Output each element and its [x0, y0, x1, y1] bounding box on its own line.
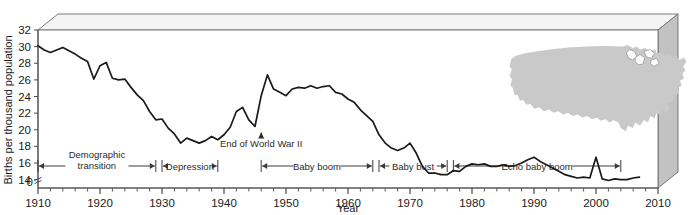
x-tick-label: 2000 [583, 197, 609, 209]
x-tick-label: 1930 [149, 197, 175, 209]
frame-top-panel [38, 14, 678, 30]
y-tick-group: 14161820222426283032 [18, 24, 38, 186]
x-axis: 1910192019301940195019601970198019902000… [25, 188, 671, 214]
period-band-label: transition [78, 160, 117, 171]
x-tick-label: 1980 [459, 197, 485, 209]
period-band-label: Depression [166, 161, 214, 172]
y-tick-label: 26 [18, 74, 31, 86]
y-tick-label: 18 [18, 140, 31, 152]
y-axis-title: Births per thousand population [2, 35, 14, 184]
x-tick-label: 1940 [211, 197, 237, 209]
y-tick-label: 16 [18, 157, 31, 169]
annotation-label: End of World War II [220, 138, 302, 149]
y-tick-label: 28 [18, 57, 31, 69]
x-tick-label: 2010 [645, 197, 671, 209]
x-tick-label: 1910 [25, 197, 51, 209]
x-tick-label: 1970 [397, 197, 423, 209]
x-tick-label: 1990 [521, 197, 547, 209]
y-tick-label: 32 [18, 24, 31, 36]
y-tick-label: 24 [18, 91, 31, 103]
period-band-label: Demographic [69, 149, 126, 160]
y-axis: 14161820222426283032 0 Births per thousa… [2, 24, 42, 188]
y-tick-label: 30 [18, 41, 31, 53]
x-axis-title: Year [337, 202, 360, 214]
y-tick-label: 20 [18, 124, 31, 136]
x-tick-label: 1920 [87, 197, 113, 209]
chart-figure: 14161820222426283032 0 Births per thousa… [0, 0, 698, 215]
x-tick-label: 1950 [273, 197, 299, 209]
y-axis-zero-label: 0 [27, 176, 33, 188]
y-tick-label: 22 [18, 107, 31, 119]
period-band: Depression [162, 160, 218, 172]
period-band-label: Baby boom [293, 161, 341, 172]
birth-rate-line-chart: 14161820222426283032 0 Births per thousa… [0, 0, 698, 215]
period-band-label: Baby bust [392, 161, 435, 172]
